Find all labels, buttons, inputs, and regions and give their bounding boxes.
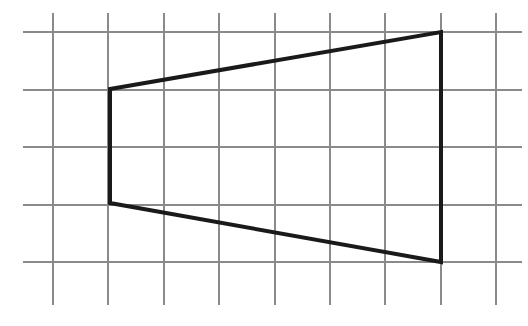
figure-canvas <box>0 0 528 326</box>
figure-background <box>0 0 528 326</box>
geometry-figure-svg <box>0 0 528 326</box>
